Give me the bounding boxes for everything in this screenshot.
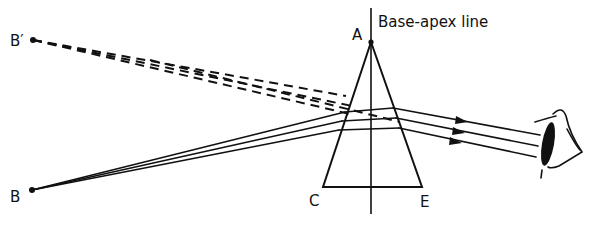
label-object-b: B (10, 188, 20, 206)
incident-rays (32, 112, 345, 190)
virtual-rays (33, 40, 400, 122)
eye-icon (535, 110, 582, 178)
label-base-right: E (420, 193, 429, 211)
label-base-left: C (309, 192, 319, 210)
apex-point (368, 39, 373, 44)
base-apex-title: Base-apex line (378, 13, 488, 31)
prism-diagram: A Base-apex line C E B B′ (0, 0, 592, 225)
label-apex: A (352, 26, 363, 44)
refracted-rays-inside (339, 108, 399, 130)
label-image-b-prime: B′ (10, 32, 24, 50)
emergent-rays (393, 108, 540, 157)
